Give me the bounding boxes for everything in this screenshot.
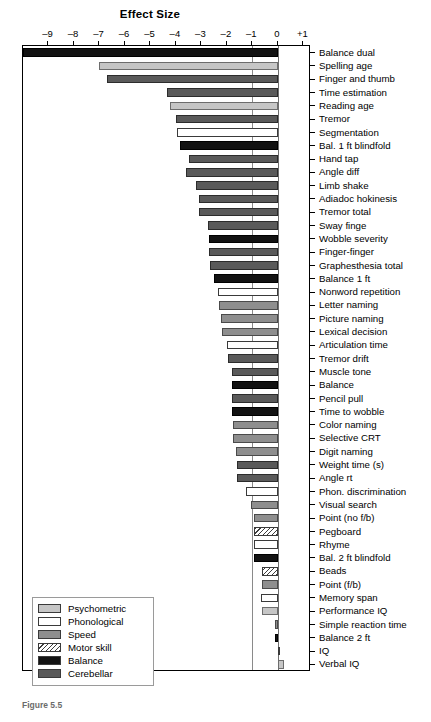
bar[interactable] xyxy=(107,75,278,84)
category-label: Lexical decision xyxy=(319,327,387,337)
category-label-row: Nonword repetition xyxy=(310,285,400,299)
y-tick-mark xyxy=(310,265,315,266)
bar[interactable] xyxy=(251,501,278,510)
bar[interactable] xyxy=(254,540,278,549)
category-label-row: Muscle tone xyxy=(310,365,371,379)
legend-item[interactable]: Motor skill xyxy=(38,641,148,654)
y-tick-mark xyxy=(310,571,315,572)
bar[interactable] xyxy=(232,368,278,377)
bar[interactable] xyxy=(262,580,278,589)
bar[interactable] xyxy=(214,274,278,283)
bar[interactable] xyxy=(246,487,278,496)
legend-swatch xyxy=(38,656,61,665)
bar-row xyxy=(23,115,309,124)
bar[interactable] xyxy=(177,128,278,137)
bar-row xyxy=(23,554,309,563)
bar[interactable] xyxy=(233,421,278,430)
category-label: Time estimation xyxy=(319,88,387,98)
legend-item[interactable]: Speed xyxy=(38,628,148,641)
bar[interactable] xyxy=(237,474,278,483)
y-tick-mark xyxy=(310,624,315,625)
bar[interactable] xyxy=(275,620,278,629)
y-tick-mark xyxy=(310,478,315,479)
y-tick-mark xyxy=(310,371,315,372)
bar[interactable] xyxy=(261,594,278,603)
bar-row xyxy=(23,301,309,310)
bar-row xyxy=(23,434,309,443)
bar[interactable] xyxy=(232,381,278,390)
category-label: Angle diff xyxy=(319,167,359,177)
bar[interactable] xyxy=(180,141,278,150)
bar[interactable] xyxy=(232,394,278,403)
y-tick-mark xyxy=(310,212,315,213)
bar[interactable] xyxy=(236,447,278,456)
y-tick-mark xyxy=(310,198,315,199)
bar[interactable] xyxy=(99,62,277,71)
figure-caption: Figure 5.5 xyxy=(22,700,62,710)
bar[interactable] xyxy=(262,607,278,616)
bar[interactable] xyxy=(275,634,278,643)
category-label: Spelling age xyxy=(319,61,372,71)
bar[interactable] xyxy=(176,115,278,124)
category-label-row: Balance dual xyxy=(310,46,375,60)
bar[interactable] xyxy=(237,461,278,470)
bar[interactable] xyxy=(222,328,278,337)
bar[interactable] xyxy=(210,261,278,270)
legend-item[interactable]: Cerebellar xyxy=(38,667,148,680)
bar[interactable] xyxy=(209,248,278,257)
y-tick-mark xyxy=(310,611,315,612)
bar[interactable] xyxy=(167,88,278,97)
category-label: Balance xyxy=(319,380,354,390)
y-tick-mark xyxy=(310,584,315,585)
bar-row xyxy=(23,421,309,430)
bar[interactable] xyxy=(232,407,278,416)
category-label: Angle rt xyxy=(319,473,352,483)
legend-item[interactable]: Phonological xyxy=(38,615,148,628)
bar[interactable] xyxy=(208,221,278,230)
bar[interactable] xyxy=(186,168,278,177)
bar-row xyxy=(23,314,309,323)
category-label-row: Bal. 1 ft blindfold xyxy=(310,139,391,153)
category-label-row: Rhyme xyxy=(310,538,350,552)
y-tick-mark xyxy=(310,651,315,652)
category-label: Tremor drift xyxy=(319,354,369,364)
legend-label: Psychometric xyxy=(68,603,126,614)
bar[interactable] xyxy=(262,567,278,576)
bar-row xyxy=(23,155,309,164)
bar[interactable] xyxy=(218,288,278,297)
bar[interactable] xyxy=(254,554,278,563)
category-label-row: Reading age xyxy=(310,99,374,113)
bar[interactable] xyxy=(199,195,278,204)
y-tick-mark xyxy=(310,491,315,492)
x-tick-label: –4 xyxy=(170,28,181,39)
bar[interactable] xyxy=(196,181,278,190)
category-label-row: Color naming xyxy=(310,418,377,432)
category-label: IQ xyxy=(319,646,329,656)
y-tick-mark xyxy=(310,292,315,293)
bar[interactable] xyxy=(170,102,278,111)
bar[interactable] xyxy=(278,660,284,669)
category-label: Tremor xyxy=(319,114,350,124)
bar[interactable] xyxy=(199,208,278,217)
bar[interactable] xyxy=(209,235,278,244)
bar[interactable] xyxy=(189,155,278,164)
y-tick-mark xyxy=(310,557,315,558)
bar-row xyxy=(23,181,309,190)
category-label-row: Balance xyxy=(310,378,354,392)
x-tick-label: –9 xyxy=(42,28,53,39)
legend-item[interactable]: Balance xyxy=(38,654,148,667)
bar[interactable] xyxy=(221,314,278,323)
legend-item[interactable]: Psychometric xyxy=(38,602,148,615)
bar[interactable] xyxy=(228,354,278,363)
bar-row xyxy=(23,447,309,456)
bar[interactable] xyxy=(23,48,278,57)
plot-area xyxy=(22,46,310,671)
bar[interactable] xyxy=(219,301,278,310)
y-tick-mark xyxy=(310,518,315,519)
bar[interactable] xyxy=(254,514,278,523)
bar[interactable] xyxy=(227,341,278,350)
bar[interactable] xyxy=(254,527,278,536)
bar[interactable] xyxy=(278,647,281,656)
category-label: Selective CRT xyxy=(319,433,381,443)
bar[interactable] xyxy=(233,434,278,443)
